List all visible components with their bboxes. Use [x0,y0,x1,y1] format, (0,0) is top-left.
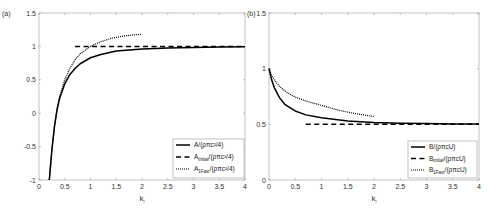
y-tick-label: 1 [32,43,36,50]
y-tick-label: 1.5 [26,10,36,17]
x-tick-label: 3 [192,183,196,190]
x-tick-label: 1.5 [343,183,353,190]
y-tick-label: 0.5 [256,121,266,128]
x-tick-label: 0 [267,183,271,190]
legend-label: A/(ρπc²/4) [194,141,223,149]
x-tick-label: 3 [425,183,429,190]
panel-a-x-axis-label: ki [140,194,145,204]
x-tick-label: 1 [89,183,93,190]
x-tick-label: 3.5 [214,183,224,190]
y-tick-label: 1.5 [256,10,266,17]
panel-b-label: (b) [247,10,256,18]
x-tick-label: 2.5 [163,183,173,190]
x-tick-label: 2 [140,183,144,190]
x-tick-label: 1 [320,183,324,190]
x-tick-label: 0.5 [290,183,300,190]
x-tick-label: 4 [477,183,481,190]
x-tick-label: 0.5 [60,183,70,190]
panel-b-legend: B/(ρπcU)Binitial/(ρπcU)B1Fast/(ρπcU) [408,141,477,178]
y-tick-label: 1 [262,65,266,72]
x-tick-label: 2 [372,183,376,190]
panel-a-label: (a) [2,10,11,18]
y-tick-label: -0.5 [24,143,36,150]
panel-b-chart: 00.511.5 00.511.522.533.54 (b) ki B/(ρπc… [247,10,481,205]
y-tick-label: 0 [262,177,266,184]
x-tick-label: 0 [37,183,41,190]
y-tick-label: -1 [30,177,36,184]
x-tick-label: 4 [243,183,247,190]
x-tick-label: 2.5 [395,183,405,190]
y-tick-label: 0.5 [26,76,36,83]
legend-label: B/(ρπcU) [429,143,456,151]
figure: -1-0.500.511.5 00.511.522.533.54 (a) ki … [0,0,502,215]
x-tick-label: 1.5 [111,183,121,190]
panel-b-x-axis-label: ki [372,194,377,204]
panel-a-chart: -1-0.500.511.5 00.511.522.533.54 (a) ki … [2,10,247,205]
panel-a-legend: A/(ρπc²/4)Ainitial/(ρπc²/4)A1Fast/(ρπc²/… [173,139,244,178]
y-tick-label: 0 [32,110,36,117]
x-tick-label: 3.5 [448,183,458,190]
